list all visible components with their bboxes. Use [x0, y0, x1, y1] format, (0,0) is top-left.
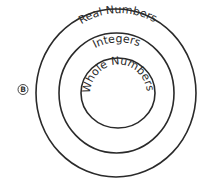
choice-letter: B — [20, 85, 26, 94]
whole-numbers-label: Whole Numbers — [80, 54, 157, 94]
answer-choice-b[interactable]: B — [18, 85, 28, 95]
integers-circle — [59, 33, 174, 153]
venn-diagram: Real Numbers Integers Whole Numbers B — [0, 0, 208, 185]
real-numbers-label: Real Numbers — [76, 3, 159, 27]
integers-label: Integers — [90, 32, 142, 51]
